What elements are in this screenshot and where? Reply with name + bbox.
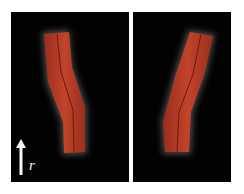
left-panel: r [11, 12, 129, 182]
right-panel [133, 12, 231, 182]
axis-label-r: r [29, 157, 35, 174]
right-rod-image [133, 12, 231, 182]
up-arrow-icon [16, 139, 26, 175]
